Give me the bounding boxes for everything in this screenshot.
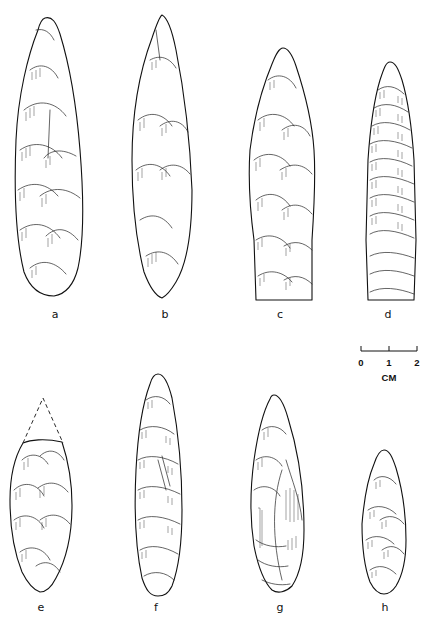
scale-tick-0: 0 — [358, 358, 363, 368]
scale-unit: CM — [382, 373, 397, 383]
reconstructed-tip-dashed — [23, 398, 63, 443]
specimen-f-drawing — [135, 374, 182, 596]
scale-tick-2: 2 — [414, 358, 419, 368]
specimen-label-g: g — [277, 602, 284, 613]
specimen-d-drawing — [366, 62, 416, 300]
specimen-g-drawing — [251, 395, 304, 592]
specimen-h-drawing — [362, 450, 406, 594]
specimen-a-drawing — [15, 18, 83, 296]
scale-tick-1: 1 — [386, 358, 391, 368]
specimen-label-b: b — [162, 309, 169, 320]
specimen-label-c: c — [277, 309, 283, 320]
specimen-e-drawing — [10, 398, 72, 592]
plate-drawing — [0, 0, 431, 628]
specimen-label-e: e — [38, 602, 45, 613]
specimen-label-a: a — [52, 309, 59, 320]
scale-bar — [361, 346, 417, 351]
specimen-label-f: f — [154, 602, 158, 613]
specimen-c-drawing — [249, 48, 315, 300]
specimen-b-drawing — [132, 15, 192, 298]
specimen-label-h: h — [382, 602, 389, 613]
specimen-label-d: d — [385, 309, 392, 320]
artifact-plate: a b c d e f g h 0 1 2 CM — [0, 0, 431, 628]
